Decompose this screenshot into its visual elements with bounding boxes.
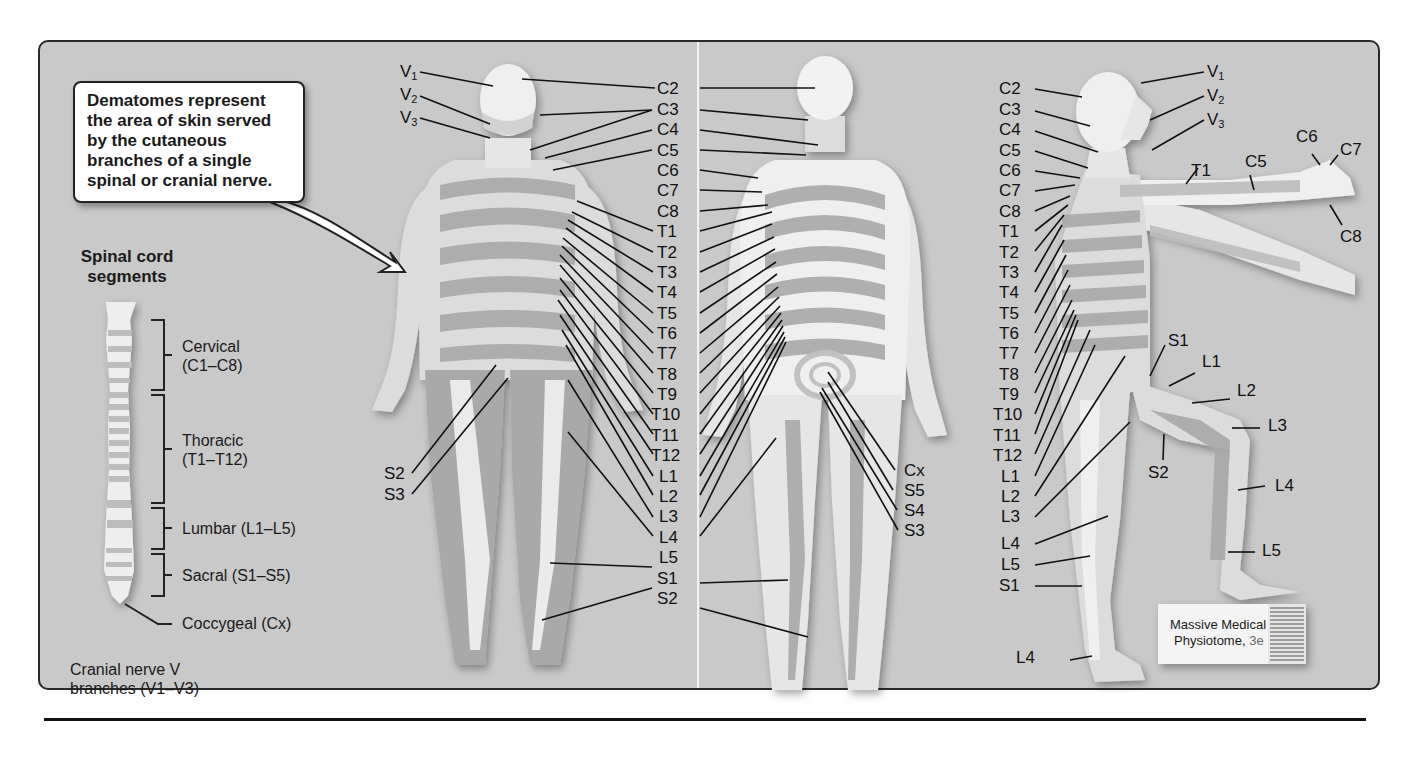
lat-label-l4-leg: L4	[1275, 476, 1294, 495]
label-c2: C2	[657, 79, 679, 98]
lat-label-c8: C8	[999, 202, 1021, 221]
lat-label-t1-arm: T1	[1191, 161, 1211, 180]
label-t9: T9	[657, 385, 677, 404]
region-coccygeal: Coccygeal (Cx)	[182, 614, 291, 633]
label-s5: S5	[904, 481, 925, 500]
lat-label-l5-leg: L5	[1262, 541, 1281, 560]
lat-label-t4: T4	[999, 283, 1019, 302]
lat-label-t6: T6	[999, 324, 1019, 343]
lat-label-t5: T5	[999, 304, 1019, 323]
label-t12: T12	[651, 446, 680, 465]
lat-label-l3-leg: L3	[1268, 416, 1287, 435]
lat-label-l4: L4	[1001, 534, 1020, 553]
lat-label-s1-leg: S1	[1168, 331, 1189, 350]
label-c3: C3	[657, 100, 679, 119]
label-t8: T8	[657, 365, 677, 384]
label-cx: Cx	[904, 461, 925, 480]
label-t5: T5	[657, 304, 677, 323]
region-range: (S1–S5)	[232, 567, 291, 584]
lat-label-l1: L1	[1001, 467, 1020, 486]
book-title-line2: Physiotome, 3e	[1170, 633, 1266, 649]
region-name: Cervical	[182, 337, 242, 356]
label-v3-anterior: V3	[400, 108, 417, 132]
label-c6: C6	[657, 161, 679, 180]
lat-label-t3: T3	[999, 263, 1019, 282]
label-c7: C7	[657, 181, 679, 200]
lat-label-v2: V2	[1207, 86, 1224, 110]
lat-label-c8-hand: C8	[1340, 227, 1362, 246]
lat-label-l1-leg: L1	[1202, 352, 1221, 371]
lat-label-l3: L3	[1001, 507, 1020, 526]
region-name: Lumbar	[182, 520, 236, 537]
label-l5: L5	[659, 548, 678, 567]
book-label: Massive Medical Physiotome, 3e	[1170, 617, 1266, 649]
region-name: Coccygeal	[182, 615, 257, 632]
lat-label-t1: T1	[999, 222, 1019, 241]
lat-label-v1: V1	[1207, 62, 1224, 86]
region-range: (Cx)	[261, 615, 291, 632]
region-lumbar: Lumbar (L1–L5)	[182, 519, 296, 538]
label-t7: T7	[657, 344, 677, 363]
label-t11: T11	[651, 426, 679, 445]
lat-label-c5-arm: C5	[1245, 152, 1267, 171]
label-s2-anterior: S2	[384, 464, 405, 483]
label-v1-anterior: V1	[400, 62, 417, 86]
region-range: (C1–C8)	[182, 356, 242, 375]
callout-arrow	[270, 200, 405, 272]
lat-label-c3: C3	[999, 100, 1021, 119]
lat-label-s1: S1	[999, 576, 1020, 595]
book-title-line1: Massive Medical	[1170, 617, 1266, 633]
lat-label-t11: T11	[993, 426, 1021, 445]
region-name: Sacral	[182, 567, 227, 584]
cranial-nerve-note: Cranial nerve V branches (V1–V3)	[70, 660, 199, 698]
lat-label-v3: V3	[1207, 110, 1224, 134]
label-s2: S2	[657, 589, 678, 608]
region-sacral: Sacral (S1–S5)	[182, 566, 291, 585]
label-t6: T6	[657, 324, 677, 343]
region-cervical: Cervical (C1–C8)	[182, 337, 242, 375]
lat-label-s2-leg: S2	[1148, 463, 1169, 482]
lat-label-c4: C4	[999, 120, 1021, 139]
cranial-note-line2: branches (V1–V3)	[70, 679, 199, 698]
label-s4: S4	[904, 501, 925, 520]
label-c5: C5	[657, 141, 679, 160]
region-range: (T1–T12)	[182, 450, 248, 469]
label-s1: S1	[657, 569, 678, 588]
label-l2: L2	[659, 487, 678, 506]
label-t1: T1	[657, 222, 677, 241]
lat-label-t12: T12	[993, 446, 1022, 465]
label-s3-posterior: S3	[904, 521, 925, 540]
label-c8: C8	[657, 202, 679, 221]
bottom-rule	[44, 718, 1366, 721]
lat-label-c7: C7	[999, 181, 1021, 200]
lat-label-c7-hand: C7	[1340, 140, 1362, 159]
label-t2: T2	[657, 243, 677, 262]
lat-label-c2: C2	[999, 79, 1021, 98]
lat-label-l2: L2	[1001, 487, 1020, 506]
label-t10: T10	[651, 405, 680, 424]
anterior-body-figure	[372, 64, 643, 665]
label-l4: L4	[659, 528, 678, 547]
label-v2-anterior: V2	[400, 85, 417, 109]
definition-callout: Dematomes represent the area of skin ser…	[73, 81, 305, 203]
region-range: (L1–L5)	[241, 520, 296, 537]
lat-label-t10: T10	[993, 405, 1022, 424]
spinal-cord-title: Spinal cord segments	[67, 247, 187, 287]
lat-label-t7: T7	[999, 344, 1019, 363]
label-c4: C4	[657, 120, 679, 139]
label-t4: T4	[657, 283, 677, 302]
lat-label-t9: T9	[999, 385, 1019, 404]
book-edition: 3e	[1249, 633, 1263, 648]
label-l1: L1	[659, 467, 678, 486]
lat-label-l2-leg: L2	[1237, 381, 1256, 400]
label-l3: L3	[659, 507, 678, 526]
lat-label-l4-foot: L4	[1016, 648, 1035, 667]
label-s3-anterior: S3	[384, 485, 405, 504]
lat-label-c6-hand: C6	[1296, 127, 1318, 146]
label-t3: T3	[657, 263, 677, 282]
lat-label-c5: C5	[999, 141, 1021, 160]
region-name: Thoracic	[182, 431, 248, 450]
lat-label-l5: L5	[1001, 555, 1020, 574]
lat-label-c6: C6	[999, 161, 1021, 180]
region-thoracic: Thoracic (T1–T12)	[182, 431, 248, 469]
